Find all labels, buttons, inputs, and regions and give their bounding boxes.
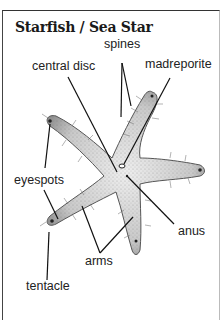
eyespot-marker (50, 219, 54, 223)
eyespots-line-1 (45, 124, 50, 168)
label-madreporite: madreporite (145, 57, 212, 71)
madreporite-marker (119, 164, 125, 168)
eyespot-marker (198, 168, 202, 172)
spines-line-1 (121, 63, 122, 117)
eyespot-marker (135, 240, 138, 243)
tentacle-line (47, 232, 49, 280)
eyespot-marker (48, 119, 52, 123)
label-anus: anus (178, 224, 205, 238)
label-arms: arms (85, 254, 113, 268)
label-tentacle: tentacle (26, 279, 70, 293)
label-eyespots: eyespots (14, 173, 64, 187)
label-spines: spines (104, 37, 140, 51)
arms-line-1 (82, 206, 100, 253)
eyespot-marker (151, 95, 154, 98)
label-central-disc: central disc (32, 59, 95, 73)
spines-line-2 (122, 63, 131, 106)
